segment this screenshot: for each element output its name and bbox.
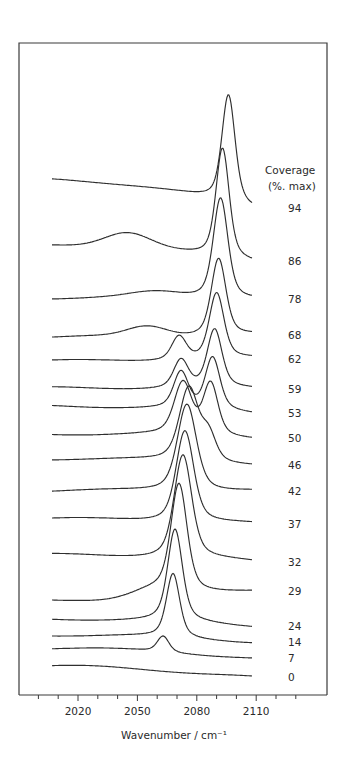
x-axis: 2020205020802110 [19, 695, 327, 717]
coverage-label-62: 62 [288, 353, 301, 365]
coverage-label-29: 29 [288, 585, 301, 597]
coverage-label-86: 86 [288, 255, 302, 267]
legend-title: Coverage (%. max) [265, 164, 316, 192]
coverage-label-37: 37 [288, 518, 301, 530]
x-tick-label: 2020 [65, 705, 92, 717]
spectrum-trace-59 [52, 329, 252, 389]
plot-frame [19, 43, 327, 695]
spectrum-trace-0 [52, 665, 252, 676]
coverage-label-46: 46 [288, 459, 302, 471]
x-axis-title: Wavenumber / cm⁻¹ [121, 729, 227, 741]
spectra-traces [52, 95, 252, 676]
coverage-labels: 94867868625953504642373229241470 [288, 202, 302, 683]
spectrum-trace-32 [52, 455, 252, 560]
legend-title-line2: (%. max) [268, 180, 316, 192]
coverage-label-24: 24 [288, 620, 302, 632]
spectrum-trace-86 [52, 148, 252, 258]
spectrum-trace-78 [52, 198, 252, 299]
spectrum-trace-50 [52, 380, 252, 437]
spectrum-trace-24 [52, 529, 252, 626]
coverage-label-42: 42 [288, 485, 301, 497]
frame-border [19, 43, 327, 695]
x-tick-label: 2050 [124, 705, 151, 717]
coverage-label-94: 94 [288, 202, 302, 214]
coverage-label-68: 68 [288, 329, 301, 341]
x-tick-label: 2110 [243, 705, 270, 717]
coverage-label-32: 32 [288, 556, 301, 568]
coverage-label-59: 59 [288, 383, 301, 395]
coverage-label-14: 14 [288, 636, 302, 648]
coverage-label-7: 7 [288, 652, 295, 664]
spectrum-trace-46 [52, 386, 252, 464]
coverage-label-0: 0 [288, 671, 295, 683]
spectrum-trace-14 [52, 573, 252, 642]
legend-title-line1: Coverage [265, 164, 315, 176]
coverage-label-50: 50 [288, 432, 301, 444]
x-tick-label: 2080 [183, 705, 210, 717]
ir-spectra-chart: 94867868625953504642373229241470 Coverag… [0, 0, 348, 772]
spectrum-trace-37 [52, 431, 252, 522]
spectrum-trace-53 [52, 357, 252, 412]
coverage-label-53: 53 [288, 407, 301, 419]
spectrum-trace-7 [52, 636, 252, 658]
spectrum-trace-29 [52, 483, 252, 600]
coverage-label-78: 78 [288, 293, 301, 305]
